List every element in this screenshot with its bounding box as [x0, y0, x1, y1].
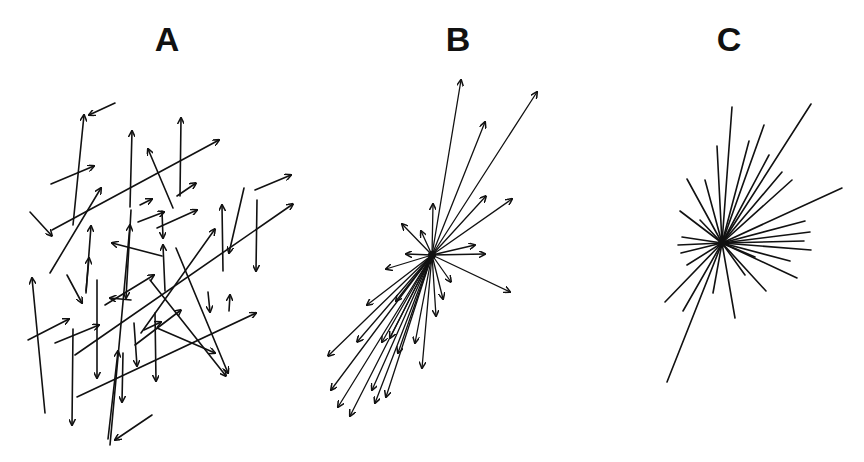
- vector-arrow: [108, 351, 118, 439]
- vector-arrow: [73, 115, 84, 225]
- vector-arrow: [72, 329, 73, 425]
- origin-point: [718, 239, 726, 247]
- vector-arrow: [130, 131, 132, 207]
- panel-label-a: A: [155, 22, 180, 56]
- vector-line: [687, 179, 722, 243]
- panel-label-c: C: [717, 22, 742, 56]
- vector-arrow: [122, 353, 123, 402]
- vector-arrow: [51, 166, 94, 184]
- vector-arrow: [157, 328, 215, 353]
- arrow-field-figure: [0, 0, 864, 462]
- figure-container: A B C: [0, 0, 864, 462]
- vector-arrow: [150, 280, 226, 376]
- panel-a-arrows: [28, 103, 293, 445]
- vector-arrow: [432, 92, 537, 255]
- vector-arrow: [432, 122, 485, 255]
- vector-line: [722, 125, 764, 243]
- panel-b-arrows: [328, 80, 537, 416]
- panel-c-lines: [665, 104, 842, 382]
- vector-line: [722, 155, 769, 243]
- vector-arrow: [222, 205, 223, 271]
- vector-arrow: [402, 224, 432, 255]
- panel-label-b: B: [446, 22, 471, 56]
- vector-arrow: [115, 415, 152, 440]
- vector-line: [667, 243, 722, 382]
- vector-arrow: [432, 254, 485, 255]
- vector-arrow: [208, 292, 210, 312]
- vector-arrow: [432, 199, 512, 255]
- origin-point: [428, 251, 436, 259]
- vector-arrow: [328, 255, 432, 356]
- vector-arrow: [155, 313, 156, 381]
- vector-arrow: [140, 199, 152, 205]
- vector-arrow: [77, 313, 256, 397]
- vector-arrow: [180, 118, 181, 196]
- vector-arrow: [135, 310, 181, 345]
- vector-arrow: [67, 275, 82, 303]
- vector-arrow: [256, 200, 257, 271]
- vector-arrow: [110, 225, 130, 445]
- vector-arrow: [163, 245, 165, 291]
- vector-arrow: [112, 243, 162, 256]
- vector-arrow: [32, 278, 45, 413]
- vector-arrow: [141, 229, 215, 333]
- vector-arrow: [55, 325, 99, 343]
- vector-arrow: [28, 319, 69, 340]
- vector-arrow: [89, 103, 115, 115]
- vector-arrow: [229, 295, 230, 311]
- vector-arrow: [255, 175, 291, 190]
- vector-arrow: [432, 255, 510, 292]
- vector-arrow: [30, 212, 52, 236]
- vector-arrow: [75, 204, 293, 355]
- vector-arrow: [138, 212, 164, 222]
